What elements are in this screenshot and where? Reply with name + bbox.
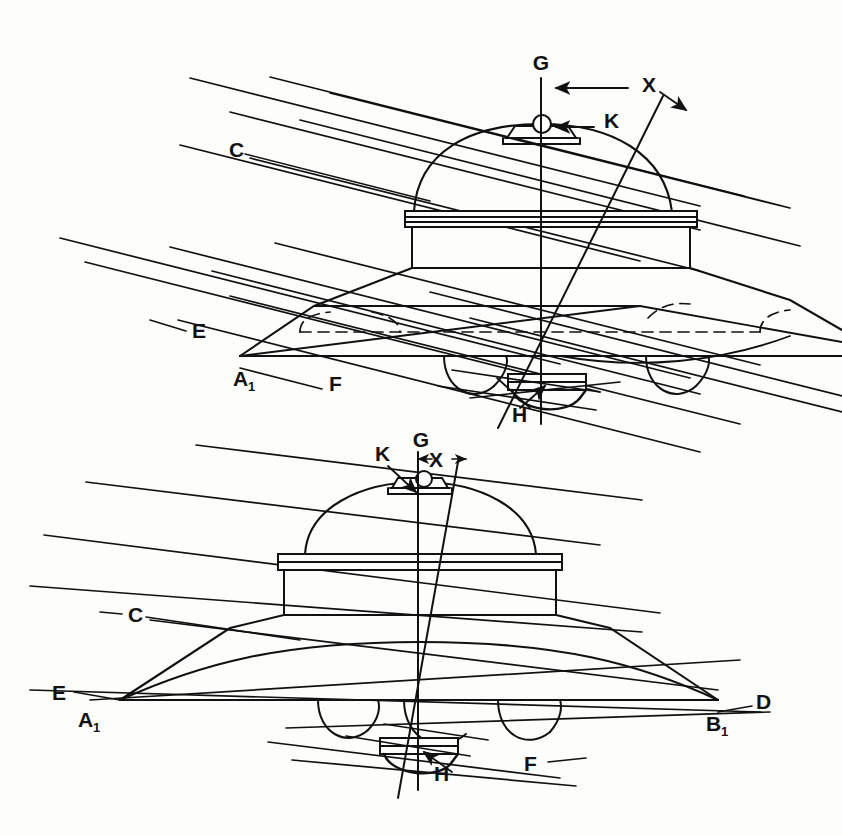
label-G-upper: G	[533, 51, 549, 74]
label-X-upper: X	[642, 73, 656, 96]
label-X-lower: X	[429, 448, 443, 471]
label-D-lower: D	[756, 690, 771, 713]
label-A1-subscript-lower: 1	[93, 720, 100, 735]
label-E-upper: E	[192, 319, 206, 342]
label-B1-lower: B	[706, 712, 721, 735]
label-A1-upper: A	[233, 367, 248, 390]
label-F-lower: F	[524, 752, 537, 775]
label-B1-subscript-lower: 1	[721, 724, 728, 739]
label-F-upper: F	[329, 372, 342, 395]
label-C-lower: C	[128, 603, 143, 626]
label-C-upper: C	[229, 138, 244, 161]
label-K-lower: K	[375, 442, 390, 465]
label-E-lower: E	[52, 681, 66, 704]
label-A1-subscript-upper: 1	[248, 379, 255, 394]
label-G-lower: G	[413, 428, 429, 451]
label-H-upper: H	[512, 403, 527, 426]
label-K-upper: K	[604, 109, 619, 132]
label-A1-lower: A	[78, 708, 93, 731]
patent-diagram-svg: G X K C E A 1 F H K G X C E A 1 B 1 D H …	[0, 0, 842, 836]
diagram-sheet: G X K C E A 1 F H K G X C E A 1 B 1 D H …	[0, 0, 842, 836]
label-H-lower: H	[434, 762, 449, 785]
